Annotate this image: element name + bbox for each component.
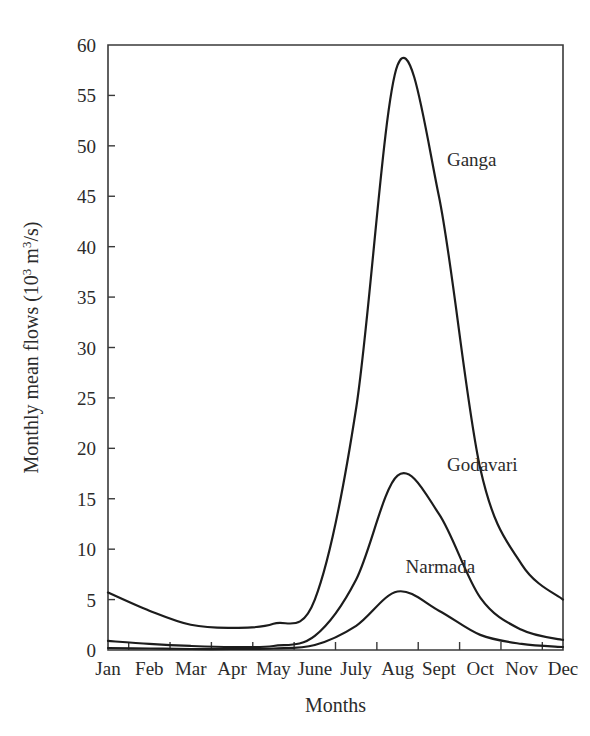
y-tick-label: 15 bbox=[77, 489, 96, 510]
chart-figure: 051015202530354045505560JanFebMarAprMayJ… bbox=[0, 0, 590, 736]
x-tick-label: May bbox=[256, 658, 291, 679]
y-axis-title: Monthly mean flows (103 m3/s) bbox=[19, 222, 44, 474]
series-label-godavari: Godavari bbox=[447, 454, 518, 475]
y-tick-label: 10 bbox=[77, 539, 96, 560]
x-tick-label: Sept bbox=[422, 658, 457, 679]
y-tick-label: 45 bbox=[77, 186, 96, 207]
y-tick-label: 5 bbox=[87, 590, 97, 611]
plot-frame bbox=[108, 45, 563, 650]
y-tick-label: 60 bbox=[77, 35, 96, 56]
y-tick-label: 35 bbox=[77, 287, 96, 308]
x-tick-label: Aug bbox=[381, 658, 414, 679]
series-label-ganga: Ganga bbox=[447, 149, 497, 170]
y-tick-label: 20 bbox=[77, 438, 96, 459]
x-tick-label: Dec bbox=[548, 658, 579, 679]
x-tick-label: Mar bbox=[175, 658, 207, 679]
y-tick-label: 40 bbox=[77, 237, 96, 258]
x-tick-label: July bbox=[340, 658, 372, 679]
x-tick-label: Apr bbox=[217, 658, 247, 679]
x-tick-label: Jan bbox=[95, 658, 121, 679]
x-tick-label: Feb bbox=[135, 658, 164, 679]
y-tick-label: 50 bbox=[77, 136, 96, 157]
x-tick-label: Oct bbox=[467, 658, 495, 679]
series-curve-ganga bbox=[108, 58, 563, 628]
y-tick-label: 30 bbox=[77, 338, 96, 359]
x-tick-label: June bbox=[297, 658, 332, 679]
y-tick-label: 25 bbox=[77, 388, 96, 409]
y-tick-label: 55 bbox=[77, 85, 96, 106]
line-chart: 051015202530354045505560JanFebMarAprMayJ… bbox=[0, 0, 590, 736]
x-tick-label: Nov bbox=[505, 658, 538, 679]
series-label-narmada: Narmada bbox=[406, 556, 476, 577]
x-axis-title: Months bbox=[305, 694, 366, 716]
